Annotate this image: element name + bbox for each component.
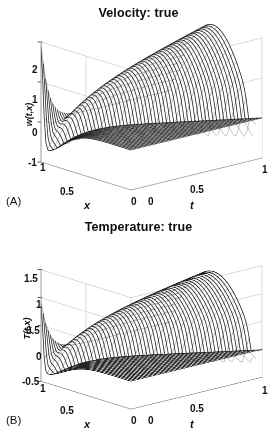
- panel-b-x-tick-1: 1: [40, 384, 46, 394]
- panel-temperature: Temperature: true T(t,x) 1.5 1 0.5 0 -0.…: [0, 214, 277, 429]
- panel-a-title: Velocity: true: [0, 6, 277, 20]
- panel-a-t-tick-0: 0: [148, 197, 154, 207]
- panel-b-x-tick-0-5: 0.5: [60, 406, 74, 416]
- temperature-surface-plot: [0, 214, 277, 428]
- panel-a-x-tick-0-5: 0.5: [60, 187, 74, 197]
- panel-a-x-tick-1: 1: [40, 163, 46, 173]
- panel-a-z-tick-2: 2: [32, 65, 38, 75]
- panel-b-z-tick-0-5: 0.5: [26, 326, 40, 336]
- figure-sheet: Velocity: true w(t,x) 2 1 0 -1 1 0.5 0 0…: [0, 0, 277, 429]
- panel-a-t-tick-0-5: 0.5: [190, 185, 204, 195]
- panel-a-t-axis-title: t: [190, 200, 194, 211]
- panel-b-title: Temperature: true: [0, 220, 277, 234]
- panel-b-x-tick-0: 0: [131, 416, 137, 426]
- panel-a-x-tick-0: 0: [131, 197, 137, 207]
- panel-b-t-tick-1: 1: [262, 386, 268, 396]
- velocity-surface-plot: [0, 0, 277, 214]
- panel-a-z-tick-0: 0: [32, 128, 38, 138]
- panel-a-z-tick-1: 1: [32, 95, 38, 105]
- panel-a-y-axis-label: w(t,x): [25, 103, 34, 127]
- panel-a-x-axis-title: x: [84, 200, 90, 211]
- panel-a-z-tick-neg1: -1: [28, 158, 37, 168]
- panel-b-t-tick-0-5: 0.5: [190, 404, 204, 414]
- panel-a-t-tick-1: 1: [262, 165, 268, 175]
- panel-b-letter: (B): [6, 415, 21, 427]
- panel-b-z-tick-neg0-5: -0.5: [22, 377, 39, 387]
- panel-a-letter: (A): [6, 196, 21, 208]
- panel-velocity: Velocity: true w(t,x) 2 1 0 -1 1 0.5 0 0…: [0, 0, 277, 214]
- panel-b-t-axis-title: t: [190, 419, 194, 429]
- panel-b-z-tick-1-5: 1.5: [24, 274, 38, 284]
- panel-b-z-tick-0: 0: [36, 352, 42, 362]
- panel-b-x-axis-title: x: [84, 419, 90, 429]
- panel-b-z-tick-1: 1: [36, 300, 42, 310]
- panel-b-t-tick-0: 0: [148, 416, 154, 426]
